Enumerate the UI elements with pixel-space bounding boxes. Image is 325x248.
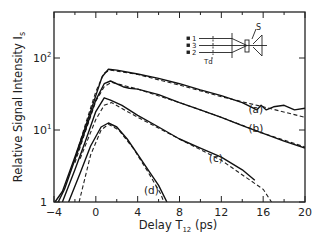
- svg-text:2: 2: [192, 49, 196, 57]
- y-tick-label: 101: [33, 123, 51, 137]
- x-axis-label: Delay T12 (ps): [139, 218, 218, 234]
- series-label: (b): [249, 122, 264, 134]
- series-label: (a): [249, 103, 264, 115]
- beam-2-marker: [187, 51, 190, 54]
- signal-beam-lower: [253, 47, 262, 56]
- log-plot: −40481216201101102 (a)(b)(c)(d) 1 3 2 S: [0, 0, 325, 248]
- beam-3-marker: [187, 44, 190, 47]
- curve-layer: [55, 69, 305, 202]
- fit-curve-dashed: [80, 103, 271, 202]
- svg-text:Relative Signal Intensity Is: Relative Signal Intensity Is: [11, 32, 27, 182]
- series-label: (c): [209, 152, 223, 164]
- fit-curve-dashed: [75, 82, 305, 163]
- y-tick-label: 1: [40, 196, 47, 209]
- beam-1-marker: [187, 37, 190, 40]
- x-tick-label: 16: [256, 206, 270, 219]
- signal-beam-upper: [253, 35, 262, 44]
- x-tick-label: −4: [46, 206, 62, 219]
- x-tick-label: 20: [298, 206, 312, 219]
- series-label: (d): [144, 184, 159, 196]
- inset-diagram: [187, 29, 267, 58]
- svg-text:Delay T12 (ps): Delay T12 (ps): [139, 218, 218, 234]
- y-tick-label: 102: [33, 51, 51, 65]
- svg-text:Td: Td: [203, 58, 213, 66]
- svg-text:S: S: [256, 23, 261, 32]
- y-axis-label: Relative Signal Intensity Is: [11, 32, 27, 182]
- inset-labels: 1 3 2 S Td: [192, 23, 261, 66]
- figure: −40481216201101102 (a)(b)(c)(d) 1 3 2 S: [0, 0, 325, 248]
- x-tick-label: 0: [92, 206, 99, 219]
